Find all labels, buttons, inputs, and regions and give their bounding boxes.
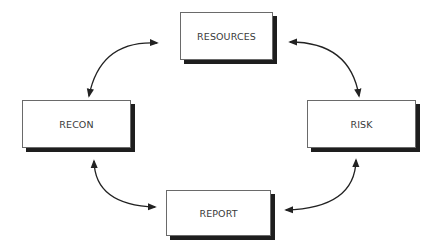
arrow-report-recon	[94, 161, 155, 207]
node-report: REPORT	[166, 190, 271, 236]
cycle-diagram: RESOURCES RECON RISK REPORT	[0, 0, 434, 249]
node-risk: RISK	[307, 100, 416, 148]
node-recon-label: RECON	[59, 119, 93, 130]
node-resources: RESOURCES	[180, 12, 273, 60]
arrow-resources-risk	[290, 42, 359, 96]
node-resources-label: RESOURCES	[197, 31, 256, 42]
arrow-recon-resources	[89, 43, 157, 96]
node-report-label: REPORT	[199, 208, 237, 219]
node-recon: RECON	[22, 100, 131, 148]
arrow-risk-report	[286, 160, 356, 210]
node-risk-label: RISK	[350, 119, 372, 130]
